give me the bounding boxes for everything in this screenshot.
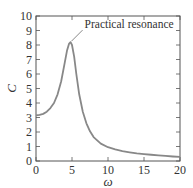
y-tick-label: 1 bbox=[26, 140, 32, 154]
y-tick-label: 4 bbox=[26, 96, 32, 110]
y-tick-label: 8 bbox=[26, 38, 32, 52]
series-line bbox=[36, 42, 180, 157]
y-tick-label: 5 bbox=[26, 82, 32, 96]
x-tick-label: 0 bbox=[33, 163, 39, 177]
chart: 01234567891005101520ωCPractical resonanc… bbox=[0, 0, 193, 188]
y-tick-label: 6 bbox=[26, 67, 32, 81]
x-tick-label: 20 bbox=[174, 163, 186, 177]
y-tick-label: 10 bbox=[20, 9, 32, 23]
x-tick-label: 5 bbox=[69, 163, 75, 177]
y-tick-label: 3 bbox=[26, 111, 32, 125]
annotation-text: Practical resonance bbox=[85, 18, 174, 30]
plot-frame bbox=[36, 16, 180, 161]
x-axis-label: ω bbox=[103, 174, 112, 188]
y-tick-label: 2 bbox=[26, 125, 32, 139]
x-tick-label: 15 bbox=[138, 163, 150, 177]
y-tick-label: 0 bbox=[26, 154, 32, 168]
annotation-leader bbox=[72, 30, 83, 41]
y-tick-label: 7 bbox=[26, 53, 32, 67]
y-axis-label: C bbox=[4, 84, 19, 93]
y-tick-label: 9 bbox=[26, 24, 32, 38]
